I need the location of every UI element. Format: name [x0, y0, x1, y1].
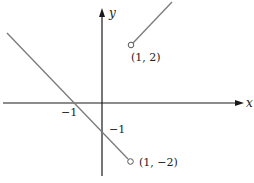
y-axis-label: y [108, 6, 116, 20]
left-line-segment [7, 33, 128, 159]
x-axis-label: x [246, 96, 253, 110]
upper-point-label: (1, 2) [131, 51, 161, 64]
x-tick-label: −1 [61, 106, 77, 119]
open-circle-lower [128, 159, 134, 165]
open-circle-upper [128, 42, 134, 48]
y-tick-label: −1 [109, 123, 125, 136]
lower-point-label: (1, −2) [139, 156, 178, 169]
graph-canvas: x y −1 −1 (1, 2) (1, −2) [0, 0, 254, 183]
right-ray-segment [133, 2, 172, 43]
y-axis-arrow-icon [99, 8, 105, 17]
x-axis-arrow-icon [235, 100, 244, 106]
